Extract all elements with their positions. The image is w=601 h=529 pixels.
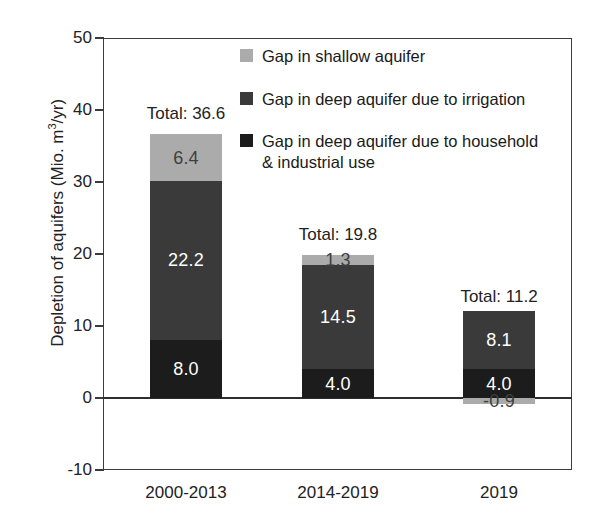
bar-segment-value: 4.0 xyxy=(486,375,512,393)
bar-segment[interactable]: 8.0 xyxy=(150,340,222,398)
bar-chart: Depletion of aquifers (Mio. m3/yr) -1001… xyxy=(0,0,601,529)
legend-label: Gap in shallow aquifer xyxy=(262,46,425,67)
legend-swatch-icon xyxy=(240,49,253,62)
legend-swatch-icon xyxy=(240,134,253,147)
legend-item-shallow-aquifer[interactable]: Gap in shallow aquifer xyxy=(240,46,570,67)
y-tick-label: 30 xyxy=(36,172,92,192)
bar-segment-negative[interactable]: -0.9 xyxy=(463,398,535,404)
bar-total-label: Total: 19.8 xyxy=(299,225,377,245)
bar-segment[interactable]: 4.0 xyxy=(302,369,374,398)
y-tick-label: 50 xyxy=(36,28,92,48)
bar-segment-value: -0.9 xyxy=(483,392,515,410)
legend: Gap in shallow aquifer Gap in deep aquif… xyxy=(240,46,570,195)
legend-item-deep-aquifer-household[interactable]: Gap in deep aquifer due to household & i… xyxy=(240,131,570,172)
bar-total-label: Total: 11.2 xyxy=(460,287,537,307)
legend-swatch-icon xyxy=(240,92,253,105)
y-tick-label: 40 xyxy=(36,100,92,120)
x-tick-label: 2000-2013 xyxy=(145,483,226,503)
bar-segment-value: 14.5 xyxy=(320,308,356,326)
legend-label: Gap in deep aquifer due to household & i… xyxy=(262,131,538,172)
y-tick-label: 0 xyxy=(36,388,92,408)
bar-segment-value: 22.2 xyxy=(168,251,204,269)
bar-segment[interactable]: 6.4 xyxy=(150,134,222,180)
bar-segment-value: 8.1 xyxy=(486,331,512,349)
x-tick-label: 2014-2019 xyxy=(297,483,378,503)
bar-segment-value: 8.0 xyxy=(173,360,199,378)
legend-item-deep-aquifer-irrigation[interactable]: Gap in deep aquifer due to irrigation xyxy=(240,89,570,110)
bar-segment-value: 1.3 xyxy=(325,251,351,269)
bar-segment-value: 6.4 xyxy=(173,149,199,167)
bar-stack[interactable]: 8.022.26.4 xyxy=(150,38,222,470)
bar-total-label: Total: 36.6 xyxy=(147,104,225,124)
y-tick-label: -10 xyxy=(36,460,92,480)
bar-segment[interactable]: 8.1 xyxy=(463,311,535,369)
bar-segment[interactable]: 14.5 xyxy=(302,265,374,369)
bar-segment-value: 4.0 xyxy=(325,375,351,393)
legend-label: Gap in deep aquifer due to irrigation xyxy=(262,89,525,110)
bar-segment[interactable]: 1.3 xyxy=(302,255,374,264)
y-tick-label: 10 xyxy=(36,316,92,336)
y-tick-label: 20 xyxy=(36,244,92,264)
x-tick-label: 2019 xyxy=(480,483,518,503)
bar-segment[interactable]: 22.2 xyxy=(150,181,222,341)
